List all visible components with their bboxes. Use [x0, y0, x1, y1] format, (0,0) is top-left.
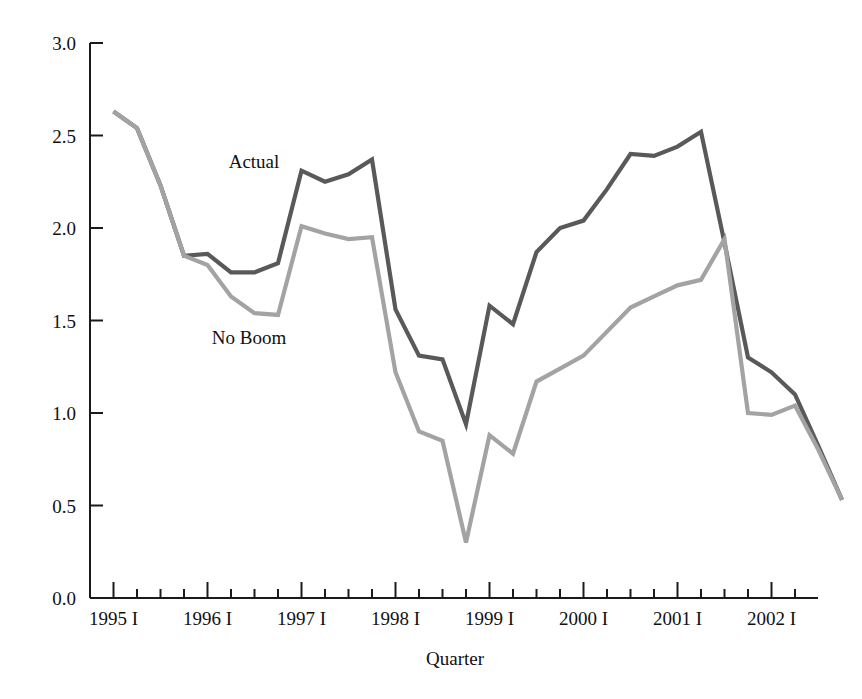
line-chart: 0.00.51.01.52.02.53.0 1995 I1996 I1997 I… — [0, 0, 862, 699]
x-tick-label: 2001 I — [653, 608, 702, 629]
x-tick-label: 1997 I — [277, 608, 326, 629]
y-tick-label: 1.5 — [52, 311, 76, 332]
series-label-actual: Actual — [229, 151, 280, 172]
x-tick-label: 1999 I — [465, 608, 514, 629]
y-axis-tick-labels: 0.00.51.01.52.02.53.0 — [52, 33, 76, 609]
y-tick-label: 0.0 — [52, 588, 76, 609]
chart-container: 0.00.51.01.52.02.53.0 1995 I1996 I1997 I… — [0, 0, 862, 699]
y-tick-label: 2.5 — [52, 126, 76, 147]
series-annotations: ActualNo Boom — [212, 151, 287, 348]
x-tick-label: 2002 I — [747, 608, 796, 629]
axes — [90, 43, 818, 598]
x-axis-title: Quarter — [426, 648, 485, 669]
axis-ticks — [90, 43, 795, 598]
x-axis-tick-labels: 1995 I1996 I1997 I1998 I1999 I2000 I2001… — [89, 608, 796, 629]
x-tick-label: 1995 I — [89, 608, 138, 629]
x-tick-label: 2000 I — [559, 608, 608, 629]
x-tick-label: 1996 I — [183, 608, 232, 629]
y-tick-label: 2.0 — [52, 218, 76, 239]
x-tick-label: 1998 I — [371, 608, 420, 629]
y-tick-label: 0.5 — [52, 496, 76, 517]
y-tick-label: 3.0 — [52, 33, 76, 54]
series-label-no-boom: No Boom — [212, 327, 287, 348]
y-tick-label: 1.0 — [52, 403, 76, 424]
